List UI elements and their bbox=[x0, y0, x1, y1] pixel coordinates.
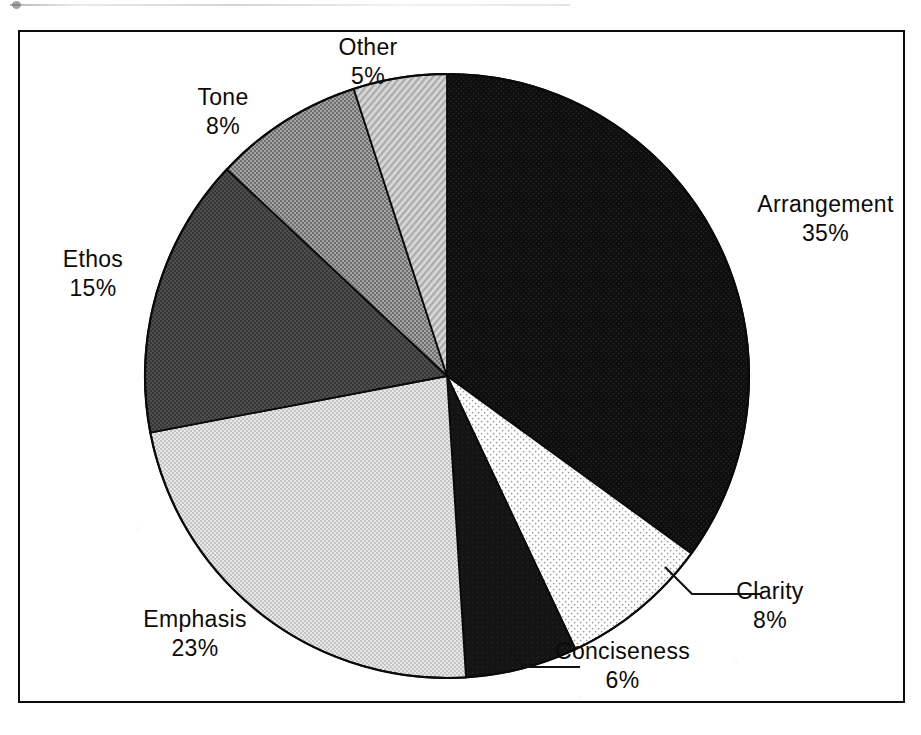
pie-label-emphasis: Emphasis 23% bbox=[100, 605, 290, 663]
pie-label-clarity: Clarity 8% bbox=[700, 577, 840, 635]
pie-label-tone: Tone 8% bbox=[148, 83, 298, 141]
pie-label-conciseness-value: 6% bbox=[515, 666, 730, 695]
pie-slices bbox=[145, 74, 749, 678]
pie-label-clarity-name: Clarity bbox=[700, 577, 840, 606]
pie-label-tone-name: Tone bbox=[148, 83, 298, 112]
pie-label-arrangement: Arrangement 35% bbox=[718, 190, 921, 248]
pie-label-conciseness-name: Conciseness bbox=[515, 637, 730, 666]
pie-label-ethos: Ethos 15% bbox=[18, 245, 168, 303]
pie-label-clarity-value: 8% bbox=[700, 606, 840, 635]
pie-label-ethos-value: 15% bbox=[18, 274, 168, 303]
pie-label-emphasis-value: 23% bbox=[100, 634, 290, 663]
pie-label-other-name: Other bbox=[288, 33, 448, 62]
pie-label-other-value: 5% bbox=[288, 62, 448, 91]
pie-label-arrangement-name: Arrangement bbox=[718, 190, 921, 219]
pie-label-conciseness: Conciseness 6% bbox=[515, 637, 730, 695]
pie-label-tone-value: 8% bbox=[148, 112, 298, 141]
pie-label-other: Other 5% bbox=[288, 33, 448, 91]
pie-label-arrangement-value: 35% bbox=[718, 219, 921, 248]
pie-label-ethos-name: Ethos bbox=[18, 245, 168, 274]
pie-label-emphasis-name: Emphasis bbox=[100, 605, 290, 634]
